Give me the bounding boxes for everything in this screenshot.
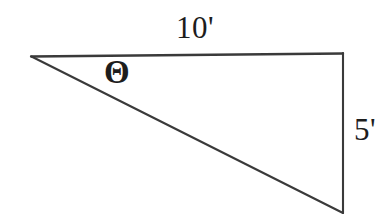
hypotenuse-line	[32, 57, 344, 214]
top-side-line	[31, 54, 343, 57]
right-side-length-label: 5'	[354, 114, 376, 145]
figure-canvas: 10' 5' Θ	[0, 0, 386, 221]
top-side-length-label: 10'	[176, 12, 214, 43]
theta-angle-label: Θ	[104, 56, 130, 89]
